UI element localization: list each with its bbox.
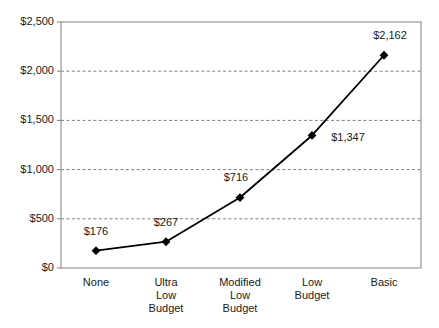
x-axis-tick-label: Basic (344, 276, 424, 289)
data-point-label: $716 (213, 172, 259, 183)
x-axis-tick-label-line: Modified (200, 276, 280, 289)
x-axis-tick-label-line: Basic (344, 276, 424, 289)
data-point-label: $267 (143, 217, 189, 228)
y-axis-tick-label: $1,000 (20, 164, 54, 175)
x-axis-tick-label: LowBudget (272, 276, 352, 302)
x-axis-tick-label-line: Budget (272, 289, 352, 302)
x-axis-tick-label-line: Low (126, 289, 206, 302)
x-axis-tick-label-line: Ultra (126, 276, 206, 289)
x-axis-tick-label-line: Budget (200, 302, 280, 315)
x-axis-tick-label: None (56, 276, 136, 289)
line-chart: $0$500$1,000$1,500$2,000$2,500 NoneUltra… (0, 0, 439, 328)
x-axis-tick-label-line: None (56, 276, 136, 289)
y-axis-tick-label: $2,000 (20, 65, 54, 76)
data-point-label: $2,162 (367, 30, 413, 41)
y-axis-tick-label: $0 (42, 262, 54, 273)
data-point-label: $1,347 (325, 132, 371, 143)
x-axis-tick-label: UltraLowBudget (126, 276, 206, 315)
x-axis-tick-label-line: Low (200, 289, 280, 302)
data-point-label: $176 (73, 226, 119, 237)
y-axis-tick-label: $500 (30, 213, 54, 224)
x-axis-tick-label-line: Low (272, 276, 352, 289)
x-axis-tick-label-line: Budget (126, 302, 206, 315)
y-axis-ticks (57, 22, 61, 268)
y-axis-tick-label: $2,500 (20, 16, 54, 27)
x-axis-tick-label: ModifiedLowBudget (200, 276, 280, 315)
y-axis-tick-label: $1,500 (20, 114, 54, 125)
